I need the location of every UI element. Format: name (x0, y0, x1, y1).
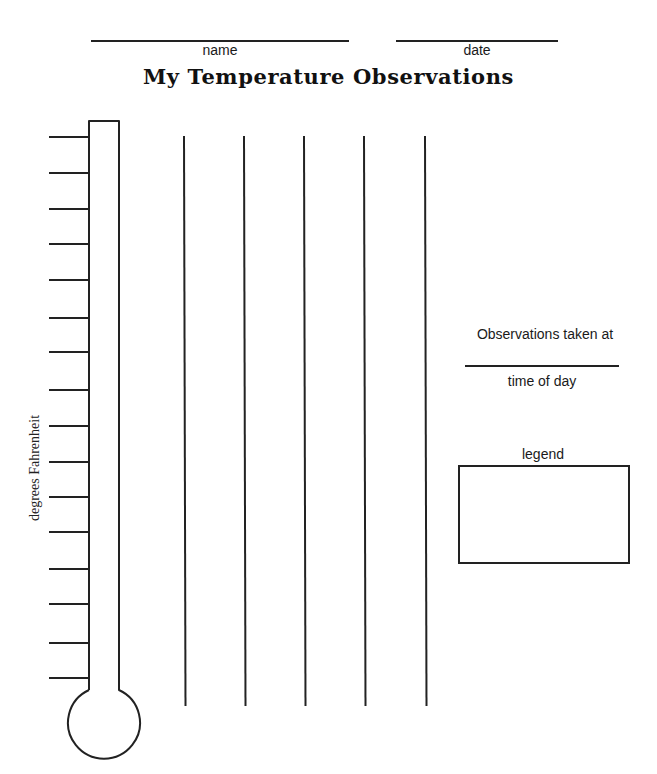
observation-column-line (364, 136, 366, 706)
worksheet-page: name date My Temperature Observations de… (0, 0, 657, 774)
time-of-day-write-line[interactable] (465, 365, 619, 367)
observations-taken-at-label: Observations taken at (455, 326, 635, 342)
observation-column-line (244, 136, 246, 706)
thermometer-icon (68, 121, 140, 759)
time-of-day-label: time of day (465, 373, 619, 389)
observation-column-line (425, 136, 427, 706)
legend-label: legend (458, 446, 628, 462)
legend-box[interactable] (458, 465, 630, 564)
y-axis-label: degrees Fahrenheit (27, 415, 43, 521)
observation-column-line (184, 136, 186, 706)
temperature-tick-marks (49, 137, 89, 678)
observation-column-lines (184, 136, 427, 706)
observation-column-line (304, 136, 306, 706)
